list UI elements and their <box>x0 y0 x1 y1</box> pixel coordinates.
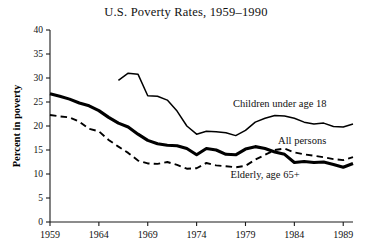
y-axis-tick-label: 40 <box>34 25 44 35</box>
x-axis: 1959196419691974197919841989 <box>40 222 353 240</box>
x-axis-tick-label: 1974 <box>187 229 207 240</box>
y-axis-tick-label: 0 <box>38 217 43 227</box>
series-label-all-persons: All persons <box>278 135 326 146</box>
series-annotations: Elderly, age 65+All personsChildren unde… <box>230 98 326 180</box>
series-layer <box>50 73 353 169</box>
y-axis-tick-label: 10 <box>34 169 44 179</box>
x-axis-tick-label: 1979 <box>235 229 255 240</box>
y-axis-tick-label: 15 <box>34 145 44 155</box>
x-axis-tick-label: 1984 <box>284 229 304 240</box>
y-axis-tick-label: 30 <box>34 73 44 83</box>
y-axis-tick-label: 25 <box>34 97 44 107</box>
y-axis-tick-label: 5 <box>38 193 43 203</box>
line-chart-plot: 0510152025303540 19591964196919741979198… <box>0 0 372 251</box>
y-axis-title: Percent in poverty <box>11 84 22 167</box>
poverty-rates-figure: U.S. Poverty Rates, 1959–1990 0510152025… <box>0 0 372 251</box>
y-axis: 0510152025303540 <box>34 25 51 227</box>
y-axis-tick-label: 35 <box>34 49 44 59</box>
x-axis-tick-label: 1989 <box>333 229 353 240</box>
series-label-children-under-age-18: Children under age 18 <box>233 98 327 109</box>
x-axis-tick-label: 1969 <box>138 229 158 240</box>
y-axis-tick-label: 20 <box>34 121 44 131</box>
series-label-elderly-age-65: Elderly, age 65+ <box>230 169 299 180</box>
x-axis-tick-label: 1964 <box>89 229 109 240</box>
x-axis-tick-label: 1959 <box>40 229 60 240</box>
